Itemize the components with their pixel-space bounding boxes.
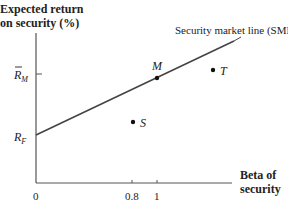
y-label-rf: RF (13, 130, 26, 146)
label-m: M (151, 59, 163, 73)
point-m (155, 76, 159, 80)
x-label-1: 1 (154, 190, 160, 202)
y-label-rm: RM (13, 68, 29, 84)
sml-label-leader (234, 37, 241, 41)
security-market-line (36, 41, 234, 135)
point-t (211, 68, 215, 72)
sml-chart: M T S Security market line (SML) RM RF 0… (0, 0, 288, 206)
label-s: S (140, 116, 146, 130)
sml-annotation: Security market line (SML) (175, 24, 288, 37)
label-t: T (220, 64, 228, 78)
x-label-0.8: 0.8 (125, 190, 139, 202)
x-label-0: 0 (33, 190, 39, 202)
point-s (131, 120, 135, 124)
